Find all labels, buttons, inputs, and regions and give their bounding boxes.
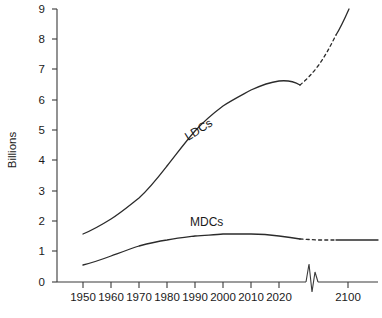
mdcs-projected-line	[300, 239, 336, 240]
mdcs-series-label: MDCs	[190, 215, 223, 229]
y-tick-label-1: 1	[39, 245, 45, 257]
ldcs-observed-line	[83, 81, 300, 234]
chart-canvas: 9 8 7 6 5 4 3 2 1 0 Billions 1950 1960 1…	[0, 0, 382, 318]
y-tick-label-6: 6	[39, 94, 45, 106]
x-axis-break-icon	[306, 264, 318, 292]
y-tick-label-2: 2	[39, 215, 45, 227]
x-tick-label-1970: 1970	[126, 291, 152, 303]
x-tick-label-2020: 2020	[266, 291, 292, 303]
y-tick-label-9: 9	[39, 3, 45, 15]
y-tick-label-5: 5	[39, 124, 45, 136]
y-axis-title: Billions	[6, 132, 18, 169]
x-tick-label-2100: 2100	[335, 291, 361, 303]
x-tick-label-1980: 1980	[154, 291, 180, 303]
y-tick-label-8: 8	[39, 33, 45, 45]
y-tick-label-3: 3	[39, 185, 45, 197]
y-tick-label-4: 4	[39, 154, 46, 166]
ldcs-terminal-line	[336, 9, 349, 35]
x-tick-label-2010: 2010	[238, 291, 264, 303]
mdcs-observed-line	[83, 234, 300, 265]
ldcs-projected-line	[300, 35, 336, 85]
x-tick-label-1960: 1960	[98, 291, 124, 303]
x-tick-label-1950: 1950	[70, 291, 96, 303]
x-tick-label-2000: 2000	[210, 291, 236, 303]
population-line-chart: 9 8 7 6 5 4 3 2 1 0 Billions 1950 1960 1…	[0, 0, 382, 318]
y-tick-label-7: 7	[39, 63, 45, 75]
ldcs-series-label: LDCs	[182, 116, 215, 144]
y-tick-label-0: 0	[39, 276, 45, 288]
x-tick-label-1990: 1990	[182, 291, 208, 303]
